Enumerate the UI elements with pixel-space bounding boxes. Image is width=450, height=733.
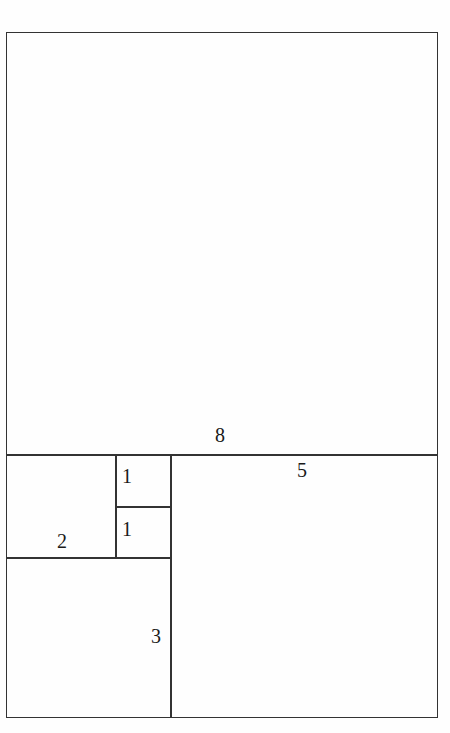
- square-3-label: 3: [151, 626, 161, 646]
- square-2-label: 2: [57, 531, 67, 551]
- square-8-label: 8: [215, 425, 225, 445]
- square-5-label: 5: [297, 460, 307, 480]
- square-3: [6, 558, 171, 718]
- square-1-lower-label: 1: [122, 519, 132, 539]
- square-8: [6, 32, 438, 455]
- square-1-upper-label: 1: [122, 466, 132, 486]
- fibonacci-diagram-canvas: 8 5 3 2 1 1: [0, 0, 450, 733]
- square-5: [171, 455, 438, 718]
